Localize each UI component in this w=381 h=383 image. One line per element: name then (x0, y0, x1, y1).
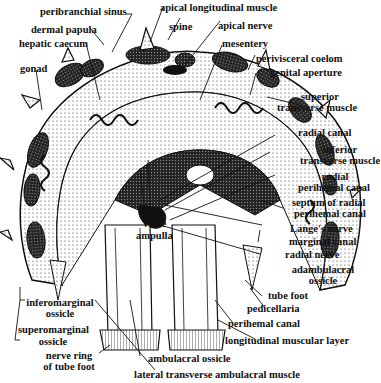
label-longitudinal-muscular-layer: longitudinal muscular layer (225, 335, 349, 346)
label-superior-transverse-muscle-1: superior (290, 91, 350, 102)
label-perivisceral-coelom: perivisceral coelom (256, 53, 343, 64)
label-inferomarginal-ossicle-2: ossicle (25, 308, 95, 319)
label-superomarginal-ossicle-1: superomarginal (18, 324, 88, 335)
label-hepatic-caecum: hepatic caecum (19, 38, 88, 49)
label-dermal-papula: dermal papula (31, 24, 97, 35)
label-lateral-transverse-ambulacral-muscle: lateral transverse ambulacral muscle (134, 369, 300, 380)
label-gonad: gonad (20, 63, 47, 74)
label-langes-nerve: Lange's nerve (290, 223, 353, 234)
label-ampulla: ampulla (136, 230, 173, 241)
label-valve: valve (143, 218, 166, 229)
label-tube-foot: tube foot (268, 290, 308, 301)
label-adambulacral-ossicle-2: ossicle (288, 275, 358, 286)
label-apical-longitudinal-muscle: apical longitudinal muscle (160, 2, 277, 13)
label-peribranchial-sinus: peribranchial sinus (40, 6, 127, 17)
label-superior-transverse-muscle-2: transverse muscle (277, 102, 357, 113)
label-marginal-canal: marginal canal (289, 236, 356, 247)
label-adambulacral-ossicle-1: adambulacral (288, 264, 358, 275)
label-inferior-transverse-muscle-2: transverse muscle (300, 155, 380, 166)
label-ambulacral-ossicle: ambulacral ossicle (148, 353, 231, 364)
label-apical-nerve: apical nerve (218, 20, 273, 31)
label-radial-perihemal-canal-2: perihemal canal (298, 182, 370, 193)
label-nerve-ring-2: of tube foot (38, 361, 100, 372)
label-spine: spine (169, 21, 192, 32)
label-pedicellaria: pedicellaria (247, 303, 300, 314)
label-superomarginal-ossicle-2: ossicle (18, 336, 88, 347)
label-perihemal-canal: perihemal canal (228, 318, 300, 329)
label-radial-nerve: radial nerve (285, 249, 340, 260)
label-genital-aperture: genital aperture (270, 67, 342, 78)
label-radial-perihemal-canal-1: radial (310, 171, 360, 182)
label-mesentery: mesentery (222, 38, 268, 49)
label-septum-1: septum of radial (292, 197, 366, 208)
label-nerve-ring-1: nerve ring (40, 350, 98, 361)
label-septum-2: perihemal canal (294, 208, 366, 219)
label-inferomarginal-ossicle-1: inferomarginal (25, 297, 95, 308)
label-radial-canal: radial canal (298, 127, 351, 138)
label-inferior-transverse-muscle-1: inferior (310, 144, 370, 155)
